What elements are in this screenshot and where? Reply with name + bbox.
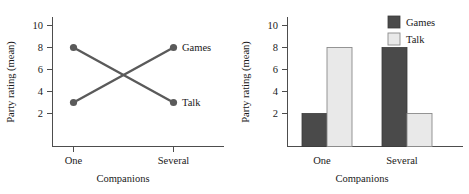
- y-axis-title: Party rating (mean): [5, 41, 17, 123]
- legend-label-talk: Talk: [406, 34, 425, 45]
- marker-talk-one: [70, 99, 77, 106]
- y-tick-label-10: 10: [268, 20, 279, 31]
- legend-label-games: Games: [406, 17, 435, 28]
- bar-plot-svg: 2 4 6 8 10 One Several Companions Party …: [235, 0, 469, 194]
- x-tick-label-one: One: [313, 155, 331, 166]
- y-axis-title: Party rating (mean): [240, 41, 252, 123]
- y-tick-label-4: 4: [273, 86, 279, 97]
- bar-games-one: [302, 114, 327, 147]
- bar-plot-panel: 2 4 6 8 10 One Several Companions Party …: [235, 0, 469, 194]
- legend-swatch-games: [388, 16, 400, 28]
- x-tick-label-one: One: [65, 155, 83, 166]
- marker-games-one: [70, 44, 77, 51]
- bar-talk-several: [407, 114, 432, 147]
- series-label-games: Games: [182, 42, 211, 53]
- y-tick-label-6: 6: [38, 64, 43, 75]
- series-label-talk: Talk: [182, 97, 201, 108]
- legend-swatch-talk: [388, 33, 400, 45]
- x-tick-label-several: Several: [386, 155, 418, 166]
- x-tick-label-several: Several: [158, 155, 190, 166]
- y-tick-label-8: 8: [38, 42, 43, 53]
- y-tick-label-2: 2: [38, 108, 43, 119]
- y-tick-label-6: 6: [273, 64, 278, 75]
- y-tick-label-10: 10: [33, 20, 44, 31]
- y-tick-label-4: 4: [38, 86, 44, 97]
- marker-games-several: [170, 99, 177, 106]
- marker-talk-several: [170, 44, 177, 51]
- two-panel-figure: 2 4 6 8 10 One Several Companions Party …: [0, 0, 469, 194]
- x-axis-title: Companions: [96, 173, 149, 184]
- bar-talk-one: [327, 48, 352, 147]
- line-plot-panel: 2 4 6 8 10 One Several Companions Party …: [0, 0, 235, 194]
- bar-games-several: [382, 48, 407, 147]
- y-tick-label-8: 8: [273, 42, 278, 53]
- legend: Games Talk: [388, 16, 435, 45]
- line-plot-svg: 2 4 6 8 10 One Several Companions Party …: [0, 0, 235, 194]
- y-tick-label-2: 2: [273, 108, 278, 119]
- x-axis-title: Companions: [335, 173, 388, 184]
